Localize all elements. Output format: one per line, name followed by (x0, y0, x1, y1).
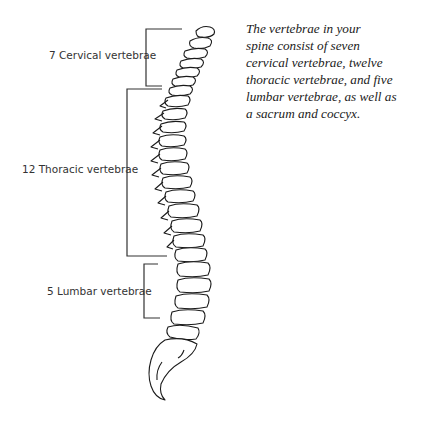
caption-line: lumbar vertebrae, as well as (246, 88, 426, 105)
thoracic-label: 12 Thoracic vertebrae (22, 163, 138, 175)
spine-vertebrae (149, 27, 215, 401)
caption-text: The vertebrae in your spine consist of s… (246, 20, 426, 122)
caption-line: a sacrum and coccyx. (246, 105, 426, 122)
cervical-label: 7 Cervical vertebrae (49, 49, 156, 61)
caption-line: spine consist of seven (246, 37, 426, 54)
caption-line: thoracic vertebrae, and five (246, 71, 426, 88)
caption-line: cervical vertebrae, twelve (246, 54, 426, 71)
caption-line: The vertebrae in your (246, 20, 426, 37)
lumbar-label: 5 Lumbar vertebrae (47, 285, 152, 297)
